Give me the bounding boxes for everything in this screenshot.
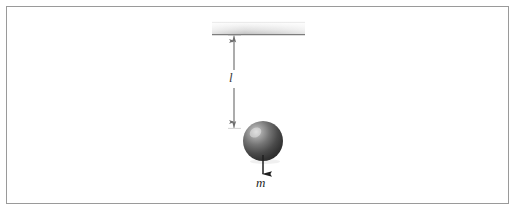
length-label: l — [229, 71, 233, 84]
mass-label: m — [256, 176, 265, 189]
ceiling-support-bar — [212, 22, 305, 35]
